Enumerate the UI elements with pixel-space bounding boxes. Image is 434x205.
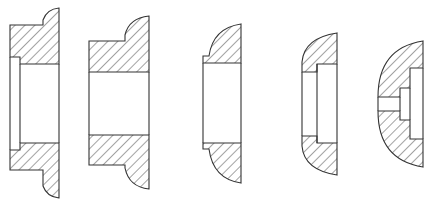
fig4-upper-section xyxy=(302,33,337,72)
fig4-bore-outline xyxy=(302,64,337,143)
fig2-lower-section xyxy=(89,135,149,189)
fig5-lower-section xyxy=(378,111,423,167)
fig3-lower-section xyxy=(203,143,241,183)
figure-4 xyxy=(302,33,337,175)
fig5-upper-section xyxy=(378,41,423,97)
diagram-canvas xyxy=(0,0,434,205)
fig2-upper-section xyxy=(89,16,149,72)
figure-3 xyxy=(203,24,241,183)
fig2-bore-outline xyxy=(89,72,149,135)
fig1-upper-section xyxy=(10,8,59,64)
fig3-upper-section xyxy=(203,24,241,63)
figure-2 xyxy=(89,16,149,189)
cross-section-diagram xyxy=(0,0,434,205)
fig1-bore-outline xyxy=(10,57,59,150)
fig3-bore-outline xyxy=(203,63,241,143)
figure-1 xyxy=(10,8,59,198)
fig1-lower-section xyxy=(10,143,59,198)
figure-5 xyxy=(378,41,423,167)
fig4-lower-section xyxy=(302,136,337,175)
